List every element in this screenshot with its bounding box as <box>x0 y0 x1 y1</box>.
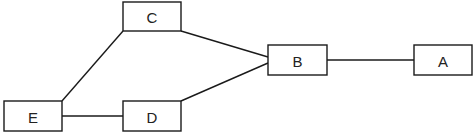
node-e-label: E <box>28 109 38 126</box>
node-b: B <box>268 45 327 75</box>
edges <box>62 31 414 116</box>
node-c: C <box>123 2 181 31</box>
node-e: E <box>4 101 62 131</box>
nodes: A B C D E <box>4 2 472 131</box>
graph-diagram: A B C D E <box>0 0 473 137</box>
node-d: D <box>123 101 181 131</box>
node-b-label: B <box>292 53 302 70</box>
edge-c-e <box>62 31 123 101</box>
node-a-label: A <box>438 53 448 70</box>
edge-c-b <box>181 31 268 57</box>
node-d-label: D <box>147 109 158 126</box>
node-c-label: C <box>147 9 158 26</box>
edge-d-b <box>181 63 268 101</box>
node-a: A <box>414 45 472 75</box>
